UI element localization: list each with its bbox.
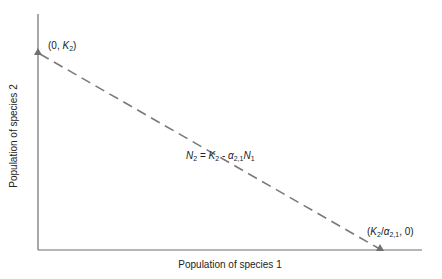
alpha-sub: 2,1 (389, 231, 399, 238)
y-axis-label: Population of species 2 (8, 84, 19, 187)
label-text: , 0) (399, 226, 413, 237)
x-intercept-label: (K2/α2,1, 0) (367, 226, 414, 237)
y-intercept-label: (0, K2) (48, 40, 76, 51)
n1-var: N (243, 150, 250, 161)
triangle-marker-y-intercept (34, 48, 42, 55)
equals: = (197, 150, 208, 161)
label-text: ) (73, 40, 76, 51)
k-var: K (370, 226, 377, 237)
isocline-equation: N2 = K2 - α2,1N1 (186, 150, 255, 161)
x-axis-label: Population of species 1 (178, 259, 281, 270)
minus: - (219, 150, 228, 161)
alpha-sub: 2,1 (234, 155, 244, 162)
label-text: (0, (48, 40, 62, 51)
n1-sub: 1 (251, 155, 255, 162)
